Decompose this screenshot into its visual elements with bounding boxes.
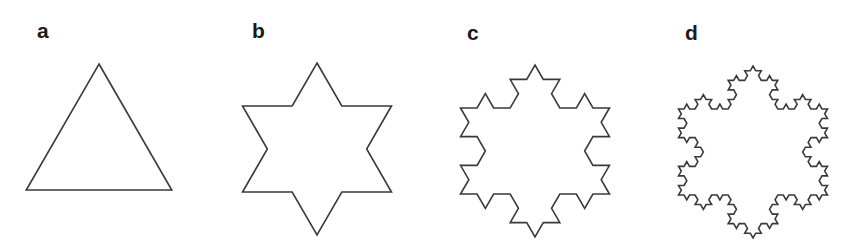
panel-b-hexagram — [243, 63, 392, 235]
panel-label-a: a — [37, 20, 49, 41]
panel-c-snowflake — [461, 65, 610, 237]
panel-label-b: b — [252, 20, 265, 41]
panel-label-d: d — [685, 22, 698, 43]
snowflake-drawings — [0, 0, 852, 251]
koch-snowflake-figure: a b c d — [0, 0, 852, 251]
panel-a-triangle — [26, 64, 172, 190]
panel-d-snowflake — [679, 66, 828, 238]
panel-label-c: c — [467, 22, 479, 43]
